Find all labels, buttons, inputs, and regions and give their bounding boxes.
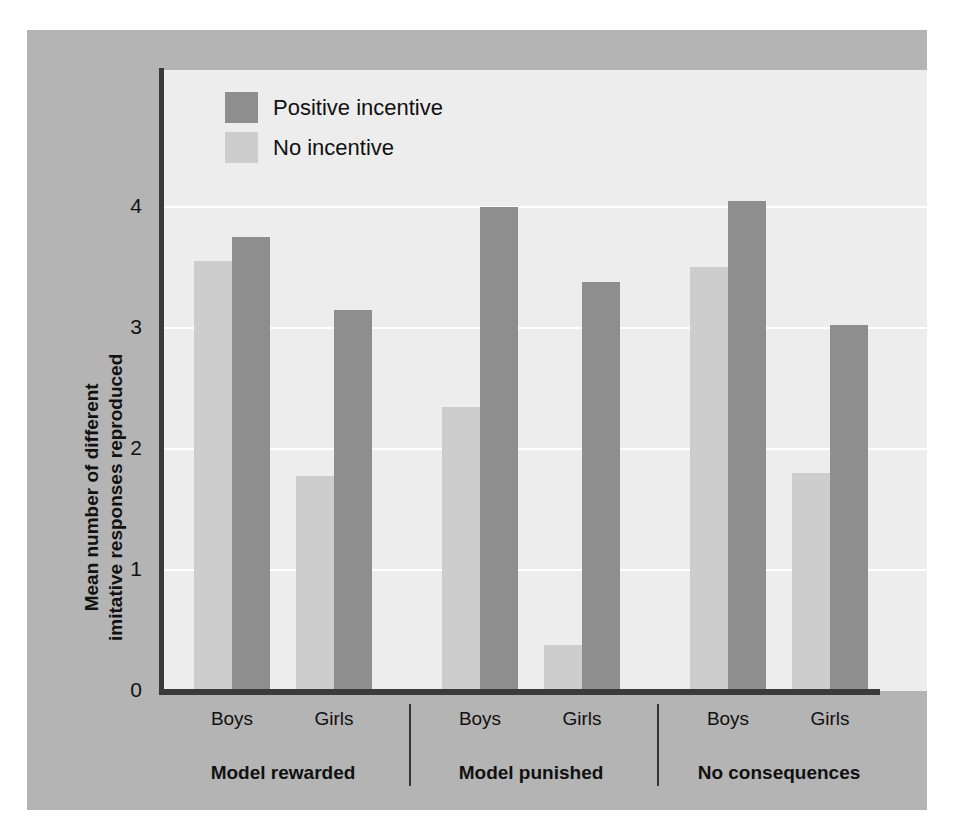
bar-model-rewarded-girls-no-incentive	[296, 476, 334, 691]
y-axis-title: Mean number of different imitative respo…	[80, 287, 129, 707]
bar-model-rewarded-boys-positive	[232, 237, 270, 691]
bar-no-consequences-boys-positive	[728, 201, 766, 691]
x-label-boys-1: Boys	[211, 708, 253, 730]
legend-item-no-incentive: No incentive	[225, 132, 443, 163]
bar-no-consequences-girls-no-incentive	[792, 473, 830, 691]
x-axis-line	[159, 689, 880, 695]
x-group-label-model-punished: Model punished	[459, 762, 604, 784]
group-separator-1	[409, 704, 411, 786]
bar-no-consequences-girls-positive	[830, 325, 868, 691]
legend-label-no-incentive: No incentive	[273, 135, 394, 161]
bar-model-punished-girls-positive	[582, 282, 620, 691]
bar-model-rewarded-boys-no-incentive	[194, 261, 232, 691]
figure: 4 3 2 1 0 Mean number of different imita…	[0, 0, 953, 832]
y-axis-title-wrapper: Mean number of different imitative respo…	[57, 180, 113, 600]
y-axis-line	[159, 68, 164, 693]
x-label-girls-3: Girls	[810, 708, 849, 730]
legend-swatch-positive-incentive	[225, 92, 258, 123]
bar-model-punished-girls-no-incentive	[544, 645, 582, 691]
legend-label-positive-incentive: Positive incentive	[273, 95, 443, 121]
y-axis-title-line2: imitative responses reproduced	[105, 354, 126, 641]
x-group-label-model-rewarded: Model rewarded	[211, 762, 356, 784]
x-label-girls-1: Girls	[314, 708, 353, 730]
group-separator-2	[657, 704, 659, 786]
x-label-boys-3: Boys	[707, 708, 749, 730]
bar-model-rewarded-girls-positive	[334, 310, 372, 691]
bar-no-consequences-boys-no-incentive	[690, 267, 728, 691]
bar-model-punished-boys-no-incentive	[442, 407, 480, 691]
x-label-girls-2: Girls	[562, 708, 601, 730]
x-label-boys-2: Boys	[459, 708, 501, 730]
bar-model-punished-boys-positive	[480, 207, 518, 691]
legend-item-positive-incentive: Positive incentive	[225, 92, 443, 123]
legend: Positive incentive No incentive	[225, 92, 443, 172]
y-axis-title-line1: Mean number of different	[81, 383, 102, 611]
x-group-label-no-consequences: No consequences	[698, 762, 861, 784]
legend-swatch-no-incentive	[225, 132, 258, 163]
x-axis-labels: Boys Girls Boys Girls Boys Girls Model r…	[0, 700, 953, 760]
